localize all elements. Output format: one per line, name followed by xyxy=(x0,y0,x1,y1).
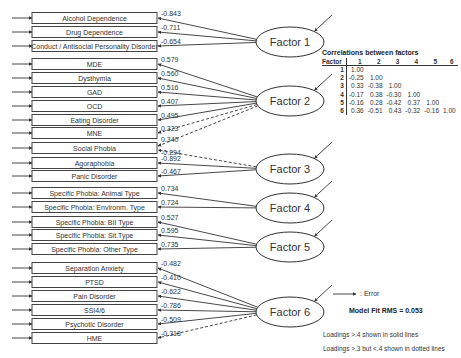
correlation-cell: -0.30 xyxy=(385,91,404,99)
correlation-cell xyxy=(441,74,458,82)
correlation-cell xyxy=(422,66,441,75)
correlation-cell: 1.00 xyxy=(422,99,441,107)
factor-error-arrow-icon xyxy=(314,142,332,158)
error-legend-label: : Error xyxy=(360,290,379,297)
correlation-cell xyxy=(385,74,404,82)
loading-value: -0.318 xyxy=(161,330,181,337)
indicator-label: Panic Disorder xyxy=(72,173,119,180)
correlation-matrix: Factor 123456 11.002-0.251.0030.33-0.381… xyxy=(322,58,458,115)
correlation-cell: 0.37 xyxy=(403,99,422,107)
factor-label: Factor 6 xyxy=(270,306,310,318)
correlation-cell: 0.33 xyxy=(346,82,365,90)
indicator-label: Eating Disorder xyxy=(70,117,119,125)
loading-value: 0.595 xyxy=(161,227,179,234)
loading-value: 0.495 xyxy=(161,112,179,119)
loading-paths: -0.843-0.711-0.6540.5790.5600.5160.4070.… xyxy=(158,10,258,338)
correlation-row-header: 6 xyxy=(322,107,346,115)
correlation-cell: -0.17 xyxy=(346,91,365,99)
loading-value: -0.786 xyxy=(161,302,181,309)
factor-error-arrow-icon xyxy=(314,220,332,236)
factor-6: Factor 6 xyxy=(256,285,332,327)
indicator-label: HME xyxy=(87,335,103,342)
correlation-col-header: 3 xyxy=(385,58,404,66)
correlation-row-header: 5 xyxy=(322,99,346,107)
correlation-cell xyxy=(403,82,422,90)
indicator-label: GAD xyxy=(87,89,102,96)
loading-value: 0.527 xyxy=(161,214,179,221)
indicator-label: Specific Phobia: Sit.Type xyxy=(56,232,134,240)
loading-value: 0.735 xyxy=(161,241,179,248)
factor-label: Factor 4 xyxy=(270,202,310,214)
factor-2: Factor 2 xyxy=(256,74,332,116)
loading-value: -0.654 xyxy=(161,38,181,45)
loading-value: 0.724 xyxy=(161,199,179,206)
indicator-label: Agoraphobia xyxy=(75,160,115,168)
correlation-cell: 1.00 xyxy=(403,91,422,99)
indicator-label: Specific Phobia: Other Type xyxy=(51,246,138,254)
note-solid-lines: Loadings >.4 shown in solid lines xyxy=(323,331,418,338)
correlation-row: 11.00 xyxy=(322,66,458,75)
correlation-cell: -0.38 xyxy=(366,82,385,90)
correlation-cell: 1.00 xyxy=(346,66,365,75)
correlation-cell: 1.00 xyxy=(441,107,458,115)
indicator-label: MNE xyxy=(87,130,103,137)
loading-value: 0.560 xyxy=(161,70,179,77)
indicator-label: MDE xyxy=(87,61,103,68)
loading-value: -0.482 xyxy=(161,260,181,267)
correlation-cell: -0.25 xyxy=(346,74,365,82)
model-fit-text: Model Fit RMS = 0.053 xyxy=(349,307,423,314)
correlation-cell: -0.32 xyxy=(403,107,422,115)
factor-1: Factor 1 xyxy=(256,15,332,57)
correlation-cell: 0.28 xyxy=(366,99,385,107)
factor-label: Factor 3 xyxy=(270,163,310,175)
correlation-row: 2-0.251.00 xyxy=(322,74,458,82)
correlation-cell: 0.43 xyxy=(385,107,404,115)
indicator-label: OCD xyxy=(87,103,103,110)
loading-path xyxy=(158,64,257,97)
loading-value: -0.622 xyxy=(161,288,181,295)
indicator-label: Drug Dependence xyxy=(66,29,123,37)
loading-path xyxy=(158,207,256,208)
correlation-cell: 1.00 xyxy=(385,82,404,90)
loading-value: 0.340 xyxy=(161,136,179,143)
correlation-cell xyxy=(403,66,422,75)
factor-3: Factor 3 xyxy=(256,142,332,184)
correlation-cell xyxy=(441,91,458,99)
loading-value: 0.323 xyxy=(161,125,179,132)
loading-value: 0.579 xyxy=(161,56,179,63)
correlation-col-header: 4 xyxy=(403,58,422,66)
correlation-cell: -0.16 xyxy=(422,107,441,115)
correlation-cell xyxy=(403,74,422,82)
correlation-cell xyxy=(422,91,441,99)
loading-value: -0.467 xyxy=(161,168,181,175)
indicator-label: Separation Anxiety xyxy=(65,265,124,273)
correlations-title: Correlations between factors xyxy=(322,49,418,56)
correlation-row-header: 3 xyxy=(322,82,346,90)
correlation-row-header: 1 xyxy=(322,66,346,75)
correlation-cell xyxy=(366,66,385,75)
factor-error-arrow-icon xyxy=(314,181,332,197)
factor-error-arrow-icon xyxy=(314,285,332,301)
correlation-cell xyxy=(422,82,441,90)
indicator-label: Alcohol Dependence xyxy=(62,15,127,23)
correlation-row-header: 2 xyxy=(322,74,346,82)
indicator-label: Conduct / Antisocial Personality Disorde… xyxy=(31,43,158,51)
factor-5: Factor 5 xyxy=(256,220,332,262)
correlation-col-header: 2 xyxy=(366,58,385,66)
correlation-col-header: 1 xyxy=(346,58,365,66)
correlation-row: 60.36-0.510.43-0.32-0.161.00 xyxy=(322,107,458,115)
loading-value: 0.516 xyxy=(161,84,179,91)
correlation-cell xyxy=(385,66,404,75)
correlation-cell: 0.36 xyxy=(346,107,365,115)
correlation-cell xyxy=(422,74,441,82)
indicator-label: Specific Phobia: BII Type xyxy=(56,219,134,227)
correlation-col-header: 6 xyxy=(441,58,458,66)
factor-ellipses: Factor 1Factor 2Factor 3Factor 4Factor 5… xyxy=(256,15,332,327)
note-dotted-lines: Loadings >.3 but <.4 shown in dotted lin… xyxy=(323,345,445,352)
correlation-cell xyxy=(441,66,458,75)
correlation-cell xyxy=(441,82,458,90)
correlation-row: 30.33-0.381.00 xyxy=(322,82,458,90)
correlation-header-row: Factor 123456 xyxy=(322,58,458,66)
factor-label: Factor 2 xyxy=(270,95,310,107)
loading-value: 0.734 xyxy=(161,185,179,192)
